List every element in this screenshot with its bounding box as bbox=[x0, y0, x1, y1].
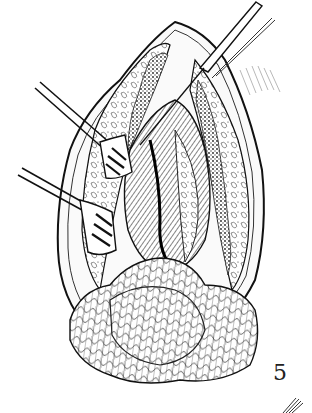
surgical-illustration bbox=[0, 0, 312, 413]
corner-hatch-mark bbox=[283, 398, 303, 413]
shading-strokes bbox=[240, 66, 280, 95]
figure-number: 5 bbox=[273, 362, 287, 384]
